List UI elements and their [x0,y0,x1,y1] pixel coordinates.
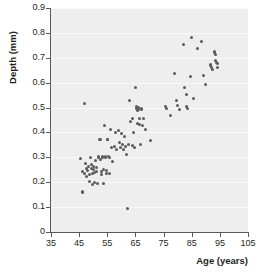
x-axis-title: Age (years) [148,255,248,266]
data-point [142,117,145,120]
gridline [51,8,248,9]
y-tick [46,58,50,59]
data-point [165,107,168,110]
data-point [216,62,219,65]
gridline [51,207,248,208]
gridline [51,33,248,34]
data-point [111,160,114,163]
data-point [99,138,102,141]
x-tick [164,233,165,237]
data-point [114,131,117,134]
y-tick-label: 0.3 [5,152,45,161]
data-point [109,128,112,131]
gridline [51,108,248,109]
data-point [102,182,105,185]
y-tick [46,8,50,9]
data-point [123,135,126,138]
x-tick [248,233,249,237]
data-point [211,68,214,71]
y-tick-label: 0 [5,227,45,236]
data-point [190,36,193,39]
data-point [183,86,186,89]
data-point [81,191,84,194]
data-point [128,99,131,102]
y-tick [46,157,50,158]
data-point [125,153,128,156]
data-point [192,97,195,100]
data-point [88,180,91,183]
y-tick [46,207,50,208]
x-tick-label: 55 [95,239,119,248]
x-tick [107,233,108,237]
y-tick-label: 0.9 [5,3,45,12]
x-tick [135,233,136,237]
data-point [149,139,152,142]
data-point [115,148,118,151]
data-point [189,75,192,78]
data-point [129,120,132,123]
x-tick-label: 75 [152,239,176,248]
data-point [126,207,129,210]
y-tick-label: 0.2 [5,177,45,186]
gridline [51,58,248,59]
data-point [178,108,181,111]
x-tick-label: 95 [208,239,232,248]
y-tick [46,232,50,233]
data-point [138,117,141,120]
y-tick-label: 0.5 [5,103,45,112]
y-tick-label: 0.1 [5,202,45,211]
data-point [132,131,135,134]
data-point [186,107,189,110]
x-tick-label: 105 [236,239,259,248]
y-axis-title: Depth (mm) [7,18,18,98]
data-point [103,124,106,127]
data-point [185,93,188,96]
data-point [216,66,219,69]
x-tick-label: 85 [180,239,204,248]
x-tick [220,233,221,237]
x-tick [192,233,193,237]
y-tick [46,33,50,34]
data-point [133,146,136,149]
y-tick [46,83,50,84]
data-point [100,173,103,176]
gridline [51,132,248,133]
data-point [139,143,142,146]
data-point [79,157,82,160]
data-point [214,53,217,56]
scatter-plot-figure: 00.10.20.30.40.50.60.70.80.9 35455565758… [0,0,259,275]
gridline [51,83,248,84]
x-tick-label: 45 [67,239,91,248]
data-point [94,159,97,162]
data-point [122,148,125,151]
data-point [108,156,111,159]
data-point [108,172,111,175]
data-point [169,114,172,117]
data-point [144,128,147,131]
x-tick [79,233,80,237]
data-point [141,124,144,127]
data-point [106,138,109,141]
data-point [182,43,185,46]
data-point [140,108,143,111]
data-point [200,40,203,43]
plot-area [51,8,248,232]
data-point [173,72,176,75]
data-point [131,117,134,120]
y-tick [46,132,50,133]
y-axis-line [50,8,51,233]
data-point [95,170,98,173]
data-point [96,182,99,185]
x-tick-label: 65 [123,239,147,248]
data-point [196,47,199,50]
x-tick-label: 35 [39,239,63,248]
gridline [51,182,248,183]
data-point [134,86,137,89]
data-point [202,74,205,77]
y-tick-label: 0.4 [5,127,45,136]
data-point [89,156,92,159]
y-tick [46,182,50,183]
data-point [86,169,89,172]
data-point [95,166,98,169]
data-point [83,102,86,105]
